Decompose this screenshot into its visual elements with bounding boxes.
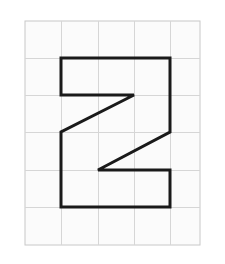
grid-panel <box>25 21 200 245</box>
figure-container <box>0 0 225 264</box>
grid-figure-svg <box>0 0 225 264</box>
